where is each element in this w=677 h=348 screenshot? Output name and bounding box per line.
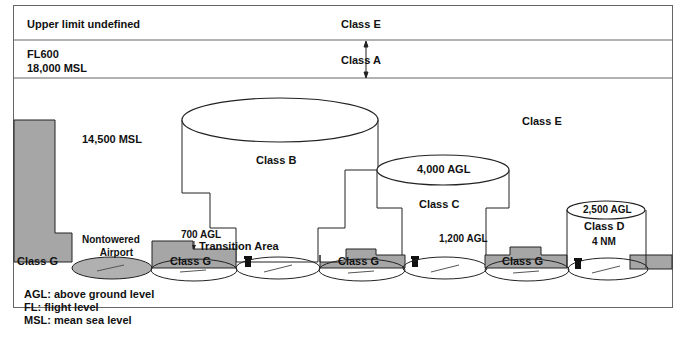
upper-limit-label: Upper limit undefined [27, 18, 140, 31]
class-g-label-1: Class G [170, 255, 211, 268]
class-d-radius-label: 4 NM [592, 235, 616, 248]
class-b-label: Class B [256, 154, 296, 167]
18000-msl-label: 18,000 MSL [27, 62, 87, 75]
runway-icon [180, 270, 206, 272]
transition-area-label: Transition Area [199, 240, 279, 253]
class-d-label: Class D [584, 220, 624, 233]
14500-msl-label: 14,500 MSL [82, 133, 142, 146]
runway-icon [513, 271, 539, 273]
control-tower-icon [244, 256, 252, 267]
class-g-label-left: Class G [17, 255, 58, 268]
fl600-label: FL600 [27, 48, 59, 61]
airspace-diagram: Upper limit undefined Class E FL600 18,0… [0, 0, 677, 348]
control-tower-icon [574, 258, 582, 269]
runway-icon [592, 266, 620, 273]
class-d-ceiling-label: 2,500 AGL [583, 203, 632, 216]
class-g-left-area [14, 120, 72, 262]
nontowered-label-line2: Airport [82, 246, 140, 259]
class-e-top-label: Class E [341, 18, 381, 31]
1200-agl-label: 1,200 AGL [439, 232, 488, 245]
runway-icon [264, 265, 292, 272]
legend-item-agl: AGL: above ground level [24, 288, 154, 301]
class-g-label-2: Class G [338, 255, 379, 268]
class-b-top-ellipse [182, 98, 378, 142]
class-c-ceiling-label: 4,000 AGL [417, 163, 470, 176]
class-g-right-strip [630, 255, 672, 269]
legend-item-msl: MSL: mean sea level [24, 314, 154, 327]
class-e-label: Class E [522, 115, 562, 128]
nontowered-label-line1: Nontowered [82, 233, 140, 246]
class-c-label: Class C [419, 198, 459, 211]
nontowered-airport-label: Nontowered Airport [82, 233, 140, 259]
legend: AGL: above ground level FL: flight level… [24, 288, 154, 327]
runway-icon [348, 271, 374, 273]
runway-icon [431, 265, 459, 272]
legend-item-fl: FL: flight level [24, 301, 154, 314]
class-a-label: Class A [341, 54, 381, 67]
class-g-label-3: Class G [502, 255, 543, 268]
